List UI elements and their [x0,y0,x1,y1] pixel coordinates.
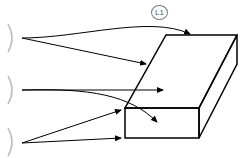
circled-label: L1 [151,5,168,20]
block-diagram [0,0,244,158]
rectangular-block [125,35,237,138]
bracket-bottom [8,128,12,156]
diagram-canvas: L1 [0,0,244,158]
bracket-top [8,24,12,52]
bracket-middle [8,76,12,104]
arrows [22,26,190,143]
